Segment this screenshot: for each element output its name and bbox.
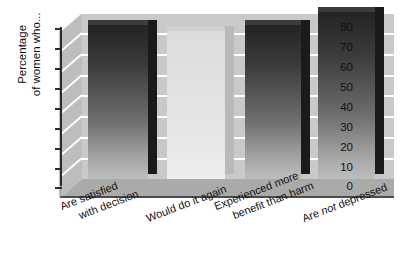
y-tick-10 xyxy=(55,168,62,170)
y-axis-title-line1: Percentage xyxy=(15,0,29,114)
bar-are-not-depressed[interactable] xyxy=(318,12,375,179)
y-tick-0 xyxy=(55,187,62,189)
y-tick-70 xyxy=(55,48,62,50)
bar-side-face xyxy=(225,26,234,174)
y-tick-40 xyxy=(55,108,62,110)
bar-side-face xyxy=(301,20,310,174)
y-tick-50 xyxy=(55,88,62,90)
bar-experienced-more-benefit-than-harm[interactable] xyxy=(245,25,301,179)
y-axis-line xyxy=(60,27,62,186)
y-ticklabel-30: 30 xyxy=(327,122,353,134)
y-tick-30 xyxy=(55,128,62,130)
bar-front-face xyxy=(245,25,301,179)
y-ticklabel-50: 50 xyxy=(327,82,353,94)
bar-side-face xyxy=(375,7,384,174)
bar-front-face xyxy=(318,12,375,179)
bar-are-satisfied-with-decision[interactable] xyxy=(88,25,148,179)
y-tick-20 xyxy=(55,148,62,150)
y-axis-title-line2: of women who... xyxy=(29,0,43,114)
bar-would-do-it-again[interactable] xyxy=(167,31,225,179)
y-ticklabel-20: 20 xyxy=(327,142,353,154)
y-ticklabel-40: 40 xyxy=(327,102,353,114)
y-tick-60 xyxy=(55,68,62,70)
bar-side-face xyxy=(148,20,157,174)
bar-front-face xyxy=(88,25,148,179)
y-ticklabel-0: 0 xyxy=(327,181,353,193)
y-ticklabel-10: 10 xyxy=(327,162,353,174)
y-axis-title: Percentage of women who... xyxy=(15,0,44,114)
y-tick-80 xyxy=(55,28,62,30)
bar-chart: 80 70 60 50 40 30 20 10 0 Percentage of … xyxy=(0,0,417,254)
y-ticklabel-70: 70 xyxy=(327,42,353,54)
y-ticklabel-60: 60 xyxy=(327,62,353,74)
bar-front-face xyxy=(167,31,225,179)
y-ticklabel-80: 80 xyxy=(327,22,353,34)
